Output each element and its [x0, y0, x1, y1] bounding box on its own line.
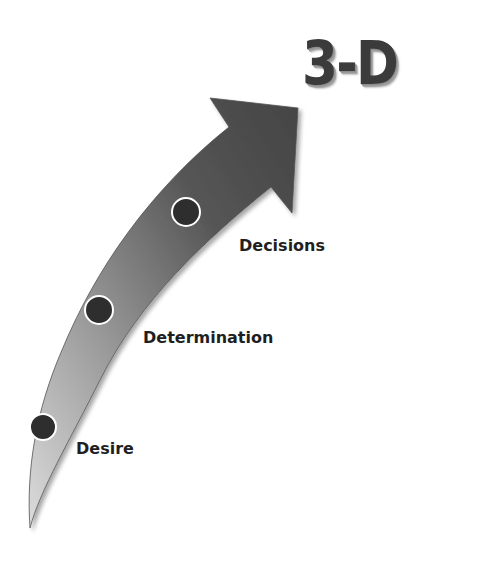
stage-label-determination: Determination	[143, 328, 273, 348]
milestone-dot-icon	[172, 198, 200, 226]
stage-label-desire: Desire	[76, 439, 134, 459]
diagram-canvas: 3-D Decisions Determination Desire	[0, 0, 487, 566]
stage-label-decisions: Decisions	[239, 236, 325, 256]
milestone-dot-icon	[30, 414, 56, 440]
milestone-markers	[0, 0, 487, 566]
milestone-dot-icon	[85, 296, 113, 324]
diagram-title: 3-D	[302, 30, 397, 96]
